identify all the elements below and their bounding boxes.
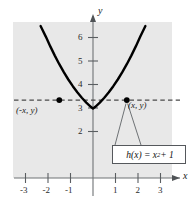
x-tick-label-1: 1 — [113, 186, 118, 195]
y-tick-label-2: 2 — [78, 127, 83, 136]
x-tick-label-neg3: -3 — [20, 186, 28, 195]
x-tick-label-3: 3 — [158, 186, 163, 195]
point-label-right: (x, y) — [128, 101, 146, 110]
graph-canvas — [0, 0, 195, 207]
x-tick-label-neg1: -1 — [65, 186, 73, 195]
x-tick-label-neg2: -2 — [43, 186, 51, 195]
y-tick-label-6: 6 — [78, 33, 83, 42]
y-axis-arrow — [90, 14, 96, 22]
equation-text: h(x) = x2 + 1 — [113, 146, 187, 163]
y-tick-label-4: 4 — [78, 80, 83, 89]
x-tick-label-2: 2 — [136, 186, 141, 195]
equation-callout-box: h(x) = x2 + 1 — [112, 145, 186, 164]
function-graph-figure: 2 3 4 5 6 -3 -2 -1 1 2 3 y x (-x, y) (x,… — [0, 0, 195, 207]
equation-fn-part: h(x) = x — [126, 150, 157, 160]
point-label-left: (-x, y) — [16, 106, 37, 115]
point-marker-left — [56, 97, 62, 103]
x-axis-arrow — [172, 175, 180, 181]
equation-tail-part: + 1 — [160, 150, 174, 160]
x-axis-label: x — [183, 171, 187, 181]
y-axis-label: y — [98, 6, 102, 16]
y-tick-label-5: 5 — [78, 57, 83, 66]
y-tick-label-3: 3 — [78, 104, 83, 113]
